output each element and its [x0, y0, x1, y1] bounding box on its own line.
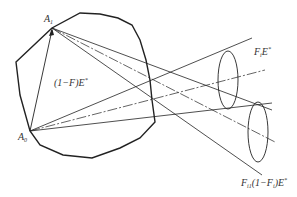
lower-sup: * — [284, 177, 287, 183]
upper-e-sup: * — [268, 46, 271, 52]
inner-energy-text: (1−F)E — [54, 77, 85, 88]
ray-a1-1 — [52, 28, 272, 110]
lower-mid: (1−F — [252, 177, 273, 188]
label-inner-energy: (1−F)E* — [54, 77, 88, 88]
inner-energy-sup: * — [85, 77, 88, 83]
label-a1-sub: 1 — [50, 19, 53, 25]
diagram-canvas: A1 A0 (1−F)E* FiE* Fi1(1−Fi)E* — [0, 0, 297, 197]
ray-a1-2 — [52, 28, 262, 175]
diagram-svg — [0, 0, 297, 197]
lower-cone-ellipse — [248, 102, 268, 162]
label-a0-sub: 0 — [24, 137, 27, 143]
label-lower-cone: Fi1(1−Fi)E* — [241, 177, 287, 189]
label-a0: A0 — [18, 132, 27, 143]
label-a1: A1 — [44, 14, 53, 25]
upper-cone-ellipse — [218, 51, 238, 109]
lower-post: )E — [275, 177, 284, 188]
label-upper-cone: FiE* — [254, 46, 271, 58]
